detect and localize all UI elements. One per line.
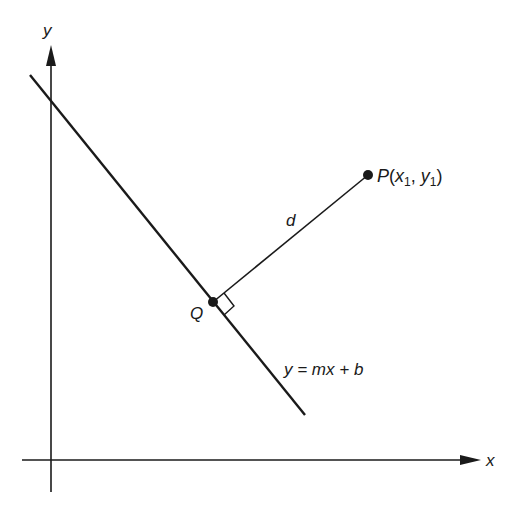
y-axis-label: y (43, 22, 52, 39)
segment-d (213, 175, 368, 302)
point-p-dot (363, 170, 373, 180)
point-p-sep: , (411, 166, 421, 186)
point-p-y: y (421, 166, 430, 186)
point-p-label: P(x1, y1) (377, 167, 442, 188)
y-axis-arrow-icon (46, 45, 56, 66)
point-q-dot (208, 297, 218, 307)
point-p-x-sub: 1 (404, 175, 411, 189)
right-angle-marker (224, 293, 234, 315)
diagram-svg (0, 0, 514, 505)
distance-from-point-to-line-diagram: y x P(x1, y1) Q d y = mx + b (0, 0, 514, 505)
x-axis-label: x (486, 452, 495, 469)
x-axis-arrow-icon (460, 455, 481, 465)
line-equation-label: y = mx + b (284, 361, 363, 378)
line-y-mx-b (30, 75, 305, 415)
distance-d-label: d (286, 212, 295, 229)
point-q-label: Q (190, 305, 203, 322)
point-p-close: ) (436, 166, 442, 186)
point-p-x: x (395, 166, 404, 186)
point-p-name: P (377, 166, 389, 186)
